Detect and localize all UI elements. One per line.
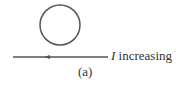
stray-mark	[174, 51, 175, 52]
current-label: I increasing	[111, 48, 172, 63]
figure-caption: (a)	[78, 64, 92, 79]
figure-a: I increasing (a)	[0, 0, 181, 95]
current-description: increasing	[115, 48, 172, 63]
current-direction-arrow-icon	[44, 55, 50, 59]
conducting-loop	[40, 5, 80, 45]
